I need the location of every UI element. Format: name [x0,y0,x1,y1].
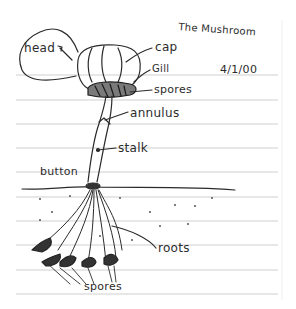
label-head: head [24,42,55,54]
label-stalk: stalk [118,142,148,154]
label-gill: Gill [152,64,169,74]
ground-line [22,187,235,190]
label-spores-bottom: spores [84,281,122,292]
notebook-page: The Mushroom 4/1/00 head cap Gill spores… [0,0,296,309]
label-button: button [40,166,78,177]
stalk-outline [88,96,106,182]
gill-pointer [134,70,150,82]
date-label: 4/1/00 [220,64,257,75]
label-annulus: annulus [130,107,179,119]
label-spores-top: spores [154,84,192,95]
button-mark [86,183,100,189]
label-cap: cap [155,41,177,53]
label-roots: roots [158,242,190,254]
roots [48,190,122,262]
soil-specks [39,195,213,241]
annulus-pointer [105,112,128,120]
cap-pointer [126,48,152,62]
